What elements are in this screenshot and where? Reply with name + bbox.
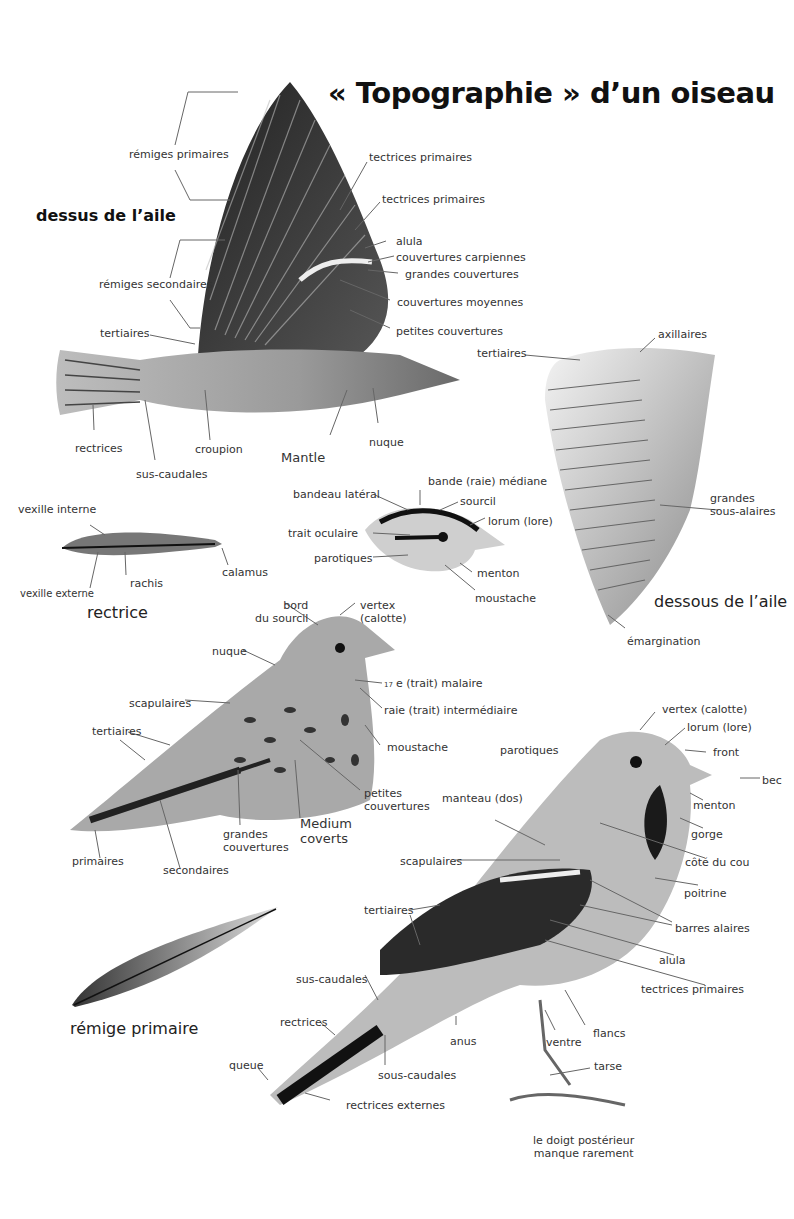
page-title: « Topographie » d’un oiseau	[328, 76, 775, 110]
label-scapulaires-perched: scapulaires	[129, 697, 191, 710]
rectrice-feather-drawing	[62, 532, 222, 555]
label-tertiaires-perched: tertiaires	[92, 725, 142, 738]
label-grandes-line2: couvertures	[223, 841, 289, 854]
label-medium-coverts: Medium coverts	[300, 816, 352, 846]
remige-caption: rémige primaire	[70, 1019, 198, 1038]
underwing-drawing	[545, 348, 715, 625]
label-sus-caudales-upper: sus-caudales	[136, 468, 207, 481]
label-flancs: flancs	[593, 1027, 625, 1040]
label-tarse: tarse	[594, 1060, 622, 1073]
label-tectrices-primaires-2: tectrices primaires	[382, 193, 485, 206]
label-vertex-perched: vertex (calotte)	[360, 599, 407, 625]
label-bandeau-lateral: bandeau latéral	[293, 488, 380, 501]
rectrice-caption: rectrice	[87, 603, 148, 622]
label-tertiaires-under: tertiaires	[477, 347, 527, 360]
label-tectrices-primaires-1: tectrices primaires	[369, 151, 472, 164]
label-grandes-sous-alaires: grandes sous-alaires	[710, 492, 780, 518]
label-bord-line1: bord	[255, 599, 308, 612]
label-vertex-standing: vertex (calotte)	[662, 703, 747, 716]
label-axillaires: axillaires	[658, 328, 707, 341]
label-doigt-line2: manque rarement	[533, 1147, 634, 1160]
label-tertiaires-standing: tertiaires	[364, 904, 414, 917]
label-bord-line2: du sourcil	[255, 612, 308, 625]
label-secondaires-perched: secondaires	[163, 864, 229, 877]
label-rectrices-upper: rectrices	[75, 442, 123, 455]
label-petites-couvertures-upper: petites couvertures	[396, 325, 503, 338]
label-tertiaires-upper: tertiaires	[100, 327, 150, 340]
label-bord-du-sourcil: bord du sourcil	[255, 599, 308, 625]
label-vertex-line1: vertex	[360, 599, 407, 612]
label-malaire-number: 17	[384, 681, 393, 689]
label-parotiques-head: parotiques	[314, 552, 373, 565]
label-petites-line2: couvertures	[364, 800, 430, 813]
label-menton-head: menton	[477, 567, 519, 580]
label-gorge: gorge	[691, 828, 723, 841]
label-emargination: émargination	[627, 635, 700, 648]
label-bande-mediane: bande (raie) médiane	[428, 475, 547, 488]
label-vertex-line2: (calotte)	[360, 612, 407, 625]
label-trait-oculaire: trait oculaire	[288, 527, 358, 540]
label-vexille-externe: vexille externe	[20, 587, 94, 600]
label-scapulaires-standing: scapulaires	[400, 855, 462, 868]
label-alula-upper: alula	[396, 235, 423, 248]
label-bec: bec	[762, 774, 782, 787]
label-front: front	[713, 746, 739, 759]
label-grandes-line1: grandes	[223, 828, 289, 841]
label-barres-alaires: barres alaires	[675, 922, 750, 935]
label-grandes-couvertures-perched: grandes couvertures	[223, 828, 289, 854]
label-malaire-text: e (trait) malaire	[396, 677, 483, 690]
label-medium-line1: Medium	[300, 816, 352, 831]
label-vexille-interne: vexille interne	[18, 503, 96, 516]
label-couvertures-moyennes: couvertures moyennes	[397, 296, 523, 309]
label-doigt-line1: le doigt postérieur	[533, 1134, 634, 1147]
label-nuque-perched: nuque	[212, 645, 247, 658]
label-lorum-head: lorum (lore)	[488, 515, 553, 528]
label-tectrices-primaires-standing: tectrices primaires	[641, 983, 744, 996]
label-alula-standing: alula	[659, 954, 686, 967]
label-sous-caudales: sous-caudales	[378, 1069, 456, 1082]
label-calamus: calamus	[222, 566, 268, 579]
label-remiges-primaires: rémiges primaires	[129, 148, 229, 161]
label-manteau: manteau (dos)	[442, 792, 523, 805]
head-detail-drawing	[365, 508, 505, 572]
label-remiges-secondaires: rémiges secondaires	[99, 278, 213, 291]
label-mantle: Mantle	[281, 450, 325, 465]
label-ventre: ventre	[546, 1036, 582, 1049]
label-moustache-perched: moustache	[387, 741, 448, 754]
label-rectrices-externes: rectrices externes	[346, 1099, 445, 1112]
label-trait-malaire: 17e (trait) malaire	[384, 677, 483, 692]
label-nuque-upper: nuque	[369, 436, 404, 449]
label-rachis: rachis	[130, 577, 163, 590]
label-poitrine: poitrine	[684, 887, 726, 900]
label-grandes-couvertures-upper: grandes couvertures	[405, 268, 519, 281]
label-queue: queue	[229, 1059, 263, 1072]
label-menton-standing: menton	[693, 799, 735, 812]
label-lorum-standing: lorum (lore)	[687, 721, 752, 734]
label-sourcil: sourcil	[460, 495, 496, 508]
upperwing-heading: dessus de l’aile	[36, 206, 176, 225]
label-croupion: croupion	[195, 443, 243, 456]
label-sus-caudales-standing: sus-caudales	[296, 973, 367, 986]
label-petites-line1: petites	[364, 787, 430, 800]
label-trait-intermediaire: raie (trait) intermédiaire	[384, 704, 517, 717]
label-couvertures-carpiennes: couvertures carpiennes	[396, 251, 526, 264]
label-rectrices-standing: rectrices	[280, 1016, 328, 1029]
label-moustache-head: moustache	[475, 592, 536, 605]
remige-feather-drawing	[72, 907, 278, 1007]
label-doigt-posterieur: le doigt postérieur manque rarement	[533, 1134, 634, 1160]
underwing-heading: dessous de l’aile	[654, 592, 787, 611]
upperwing-bird-drawing	[56, 82, 460, 415]
label-medium-line2: coverts	[300, 831, 352, 846]
label-parotiques-standing: parotiques	[500, 744, 559, 757]
label-cote-du-cou: côté du cou	[685, 856, 750, 869]
label-petites-couvertures-perched: petites couvertures	[364, 787, 430, 813]
label-primaires-perched: primaires	[72, 855, 124, 868]
label-anus: anus	[450, 1035, 476, 1048]
